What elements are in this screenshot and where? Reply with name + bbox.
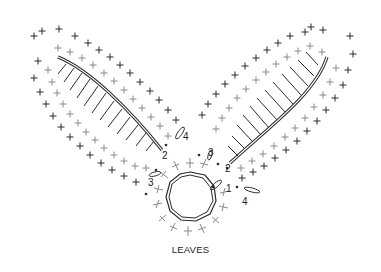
crochet-leaves-diagram bbox=[0, 0, 381, 272]
left-leaf bbox=[31, 26, 186, 196]
round-label: 3 bbox=[208, 148, 214, 158]
diagram-title: LEAVES bbox=[0, 244, 381, 255]
ring-stitches bbox=[153, 158, 229, 236]
round-label: 4 bbox=[242, 197, 248, 207]
round-label: 2 bbox=[162, 151, 168, 161]
chain-ring-icon bbox=[166, 172, 216, 221]
round-label: 4 bbox=[183, 132, 189, 142]
round-label: 1 bbox=[226, 184, 232, 194]
round-label: 3 bbox=[148, 178, 154, 188]
round-label: 2 bbox=[225, 164, 231, 174]
right-leaf bbox=[198, 24, 357, 195]
